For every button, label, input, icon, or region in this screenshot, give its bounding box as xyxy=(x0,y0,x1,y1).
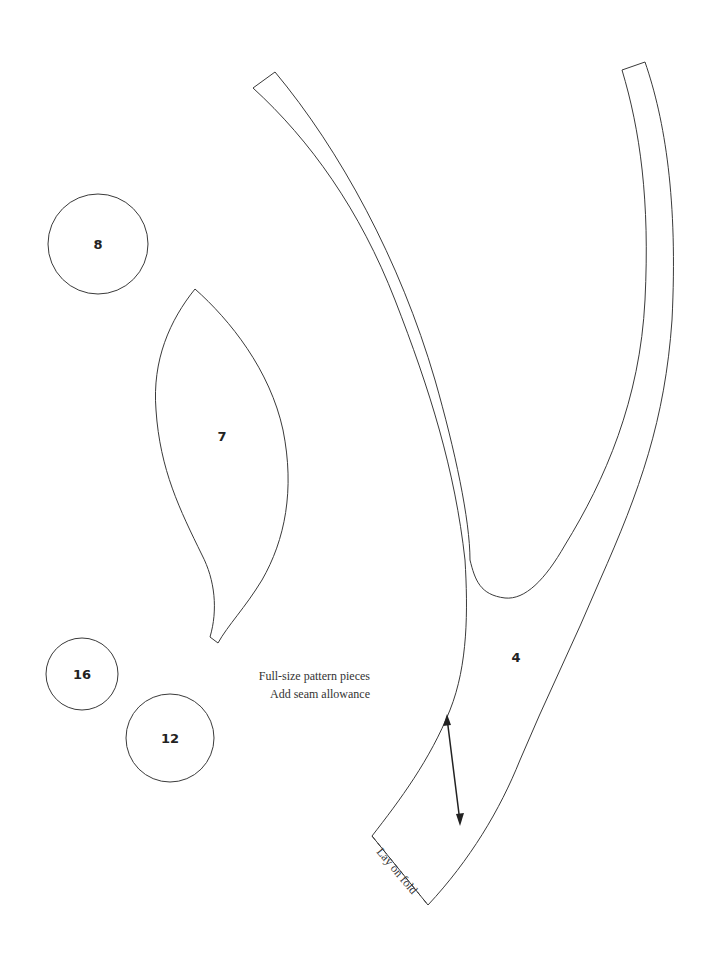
pattern-piece-12: 12 xyxy=(126,694,214,782)
caption-full-size: Full-size pattern pieces xyxy=(259,669,371,683)
piece-label-8: 8 xyxy=(93,237,102,252)
grainline-arrow-icon xyxy=(443,714,464,826)
pattern-piece-7: 7 xyxy=(155,289,288,643)
pattern-piece-8: 8 xyxy=(48,194,148,294)
piece-label-12: 12 xyxy=(161,731,179,746)
caption-seam-allowance: Add seam allowance xyxy=(270,687,370,701)
pattern-piece-16: 16 xyxy=(46,638,118,710)
piece-label-4: 4 xyxy=(511,650,520,665)
piece-label-16: 16 xyxy=(73,667,91,682)
fold-label: Lay on fold xyxy=(374,845,421,897)
pattern-sheet: 8 7 16 12 Full-size pattern pieces Add s… xyxy=(0,0,701,956)
pattern-piece-4: 4 Lay on fold xyxy=(253,62,673,905)
piece-label-7: 7 xyxy=(217,429,226,444)
